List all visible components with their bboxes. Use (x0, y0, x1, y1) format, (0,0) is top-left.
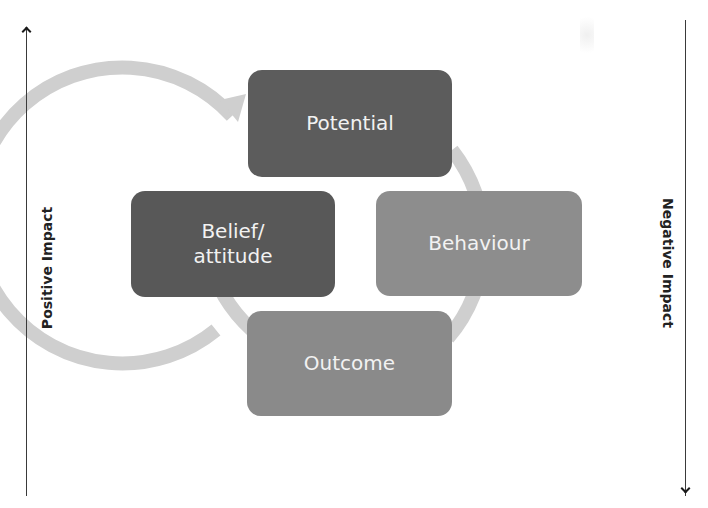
node-outcome-label: Outcome (304, 351, 395, 376)
node-belief-label-line1: Belief/ (201, 219, 264, 244)
positive-impact-axis-line (26, 28, 27, 496)
negative-impact-label: Negative Impact (660, 198, 676, 328)
negative-impact-axis-line (685, 20, 686, 496)
node-potential: Potential (248, 70, 452, 177)
node-belief-attitude: Belief/ attitude (131, 191, 335, 297)
node-behaviour: Behaviour (376, 191, 582, 296)
node-potential-label: Potential (306, 111, 394, 136)
scan-artifact (580, 10, 594, 60)
positive-impact-label: Positive Impact (39, 207, 55, 329)
node-outcome: Outcome (247, 311, 452, 416)
node-belief-label-line2: attitude (193, 244, 272, 269)
node-behaviour-label: Behaviour (428, 231, 529, 256)
